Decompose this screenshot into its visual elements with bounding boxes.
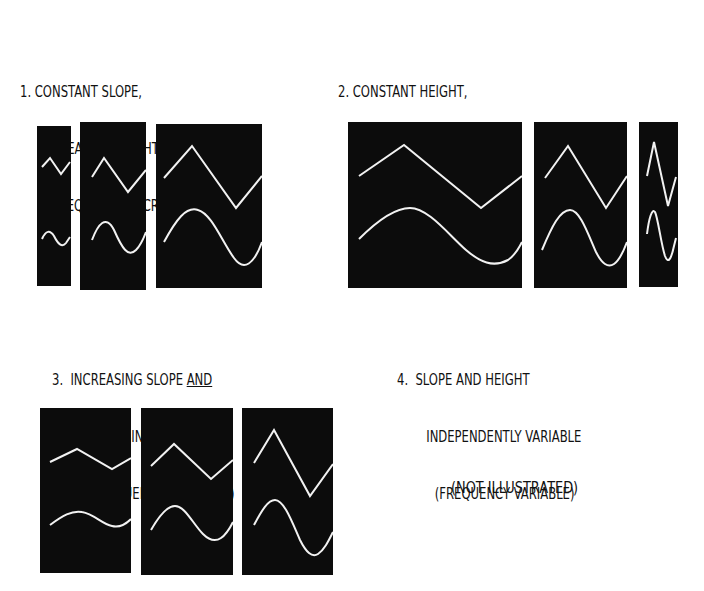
waveform-icon [156, 124, 262, 288]
group-1-panel-medium [80, 122, 146, 290]
waveform-icon [242, 408, 333, 575]
waveform-icon [141, 408, 233, 575]
waveform-icon [37, 126, 71, 286]
group-3-number: 3. [52, 371, 63, 389]
not-illustrated-note: (NOT ILLUSTRATED) [451, 479, 578, 497]
group-4-line1: SLOPE AND HEIGHT [415, 371, 529, 389]
group-2-line1: CONSTANT HEIGHT, [353, 83, 468, 101]
group-3-line1-emphasis: AND [187, 371, 213, 389]
group-1-line1: CONSTANT SLOPE, [35, 83, 142, 101]
group-2-panel-wide [348, 122, 522, 288]
group-2-number: 2. [338, 83, 349, 101]
group-3-panel-high [242, 408, 333, 575]
group-4-line2: INDEPENDENTLY VARIABLE [397, 428, 581, 447]
group-1-number: 1. [20, 83, 31, 101]
waveform-icon [348, 122, 522, 288]
waveform-icon [80, 122, 146, 290]
group-1-panel-large [156, 124, 262, 288]
group-4-number: 4. [397, 371, 408, 389]
waveform-icon [534, 122, 627, 288]
group-1-panel-small [37, 126, 71, 286]
waveform-icon [40, 408, 131, 573]
group-3-line1-pre: INCREASING SLOPE [70, 371, 186, 389]
group-2-panel-medium [534, 122, 627, 288]
waveform-icon [639, 122, 678, 287]
group-2-panel-narrow [639, 122, 678, 287]
group-3-panel-low [40, 408, 131, 573]
group-3-panel-mid [141, 408, 233, 575]
